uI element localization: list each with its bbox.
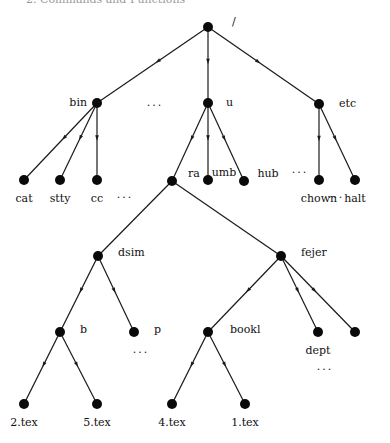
ellipsis-under-dept: ... xyxy=(317,360,334,373)
arrowhead-icon xyxy=(79,135,83,141)
ellipsis-top-level: ... xyxy=(147,96,164,109)
tree-node-stty xyxy=(55,175,65,185)
node-label-tex1: 1.tex xyxy=(231,416,259,429)
edge-etc-to-halt xyxy=(319,104,355,180)
edge-b-to-tex5 xyxy=(60,332,97,404)
arrowhead-icon xyxy=(95,135,99,140)
tree-labels: /binuetccatsttyccraumbhubchownhaltdsimfe… xyxy=(10,15,366,429)
edge-fejer-to-dept xyxy=(281,256,318,332)
tree-node-fejer xyxy=(276,251,286,261)
node-label-umb: umb xyxy=(212,166,237,179)
tree-node-tex5 xyxy=(92,399,102,409)
node-label-tex5: 5.tex xyxy=(83,416,111,429)
tree-node-cc xyxy=(92,175,102,185)
arrowhead-icon xyxy=(42,361,46,367)
arrowhead-icon xyxy=(222,361,226,367)
arrowhead-icon xyxy=(112,287,116,293)
node-label-dept: dept xyxy=(305,344,331,357)
node-label-fejer: fejer xyxy=(301,246,328,259)
node-label-hub: hub xyxy=(257,167,278,180)
tree-node-dept xyxy=(313,327,323,337)
node-label-p: p xyxy=(154,323,161,336)
edge-root-to-etc xyxy=(208,27,319,104)
edge-dsim-to-b xyxy=(60,256,98,332)
edge-b-to-tex2 xyxy=(24,332,60,404)
arrowhead-icon xyxy=(190,361,194,367)
edge-fejer-to-fejer_other xyxy=(281,256,355,332)
edge-root-to-bin xyxy=(97,27,208,103)
tree-node-fejer_other xyxy=(350,327,360,337)
node-label-bin: bin xyxy=(69,96,87,109)
tree-node-tex1 xyxy=(240,399,250,409)
node-label-b: b xyxy=(80,323,87,336)
tree-node-halt xyxy=(350,175,360,185)
tree-node-ra xyxy=(167,176,177,186)
tree-node-root xyxy=(203,22,213,32)
tree-node-cat xyxy=(19,175,29,185)
ellipsis-after-hub: ... xyxy=(292,163,309,176)
arrowhead-icon xyxy=(74,361,78,367)
node-label-tex2: 2.tex xyxy=(10,416,38,429)
edge-bookl-to-tex4 xyxy=(172,332,208,404)
tree-node-etc xyxy=(314,99,324,109)
edge-bin-to-stty xyxy=(60,103,97,180)
ellipsis-after-cc: ... xyxy=(117,188,134,201)
node-label-tex4: 4.tex xyxy=(158,416,186,429)
edge-ra-to-fejer xyxy=(172,181,281,256)
node-label-stty: stty xyxy=(50,192,71,205)
edge-bookl-to-tex1 xyxy=(208,332,245,404)
tree-node-tex4 xyxy=(167,399,177,409)
node-label-halt: halt xyxy=(344,192,366,205)
arrowhead-icon xyxy=(222,135,226,141)
arrowhead-icon xyxy=(206,135,210,140)
directory-tree: /binuetccatsttyccraumbhubchownhaltdsimfe… xyxy=(0,0,390,443)
edge-bin-to-cat xyxy=(24,103,97,180)
tree-node-p xyxy=(129,327,139,337)
edge-dsim-to-p xyxy=(98,256,134,332)
tree-node-bin xyxy=(92,98,102,108)
node-label-dsim: dsim xyxy=(118,246,145,259)
arrowhead-icon xyxy=(317,136,321,141)
ellipsis-between-chown-halt: ... xyxy=(328,188,345,201)
node-label-u: u xyxy=(226,96,233,109)
arrowhead-icon xyxy=(80,287,84,293)
node-label-ra: ra xyxy=(188,167,200,180)
node-label-cat: cat xyxy=(15,192,33,205)
tree-node-tex2 xyxy=(19,399,29,409)
edge-ra-to-dsim xyxy=(98,181,172,256)
node-label-bookl: bookl xyxy=(230,323,261,336)
ellipsis-under-p: ... xyxy=(133,343,150,356)
arrowhead-icon xyxy=(333,135,337,141)
tree-node-dsim xyxy=(93,251,103,261)
tree-node-bookl xyxy=(203,327,213,337)
arrowhead-icon xyxy=(191,135,195,141)
arrowhead-icon xyxy=(206,59,210,64)
edge-fejer-to-bookl xyxy=(208,256,281,332)
node-label-cc: cc xyxy=(91,192,103,205)
tree-node-chown xyxy=(314,175,324,185)
node-label-root: / xyxy=(232,15,236,28)
node-label-etc: etc xyxy=(339,97,356,110)
tree-node-b xyxy=(55,327,65,337)
arrowhead-icon xyxy=(295,287,299,293)
tree-node-u xyxy=(203,98,213,108)
tree-node-hub xyxy=(239,176,249,186)
